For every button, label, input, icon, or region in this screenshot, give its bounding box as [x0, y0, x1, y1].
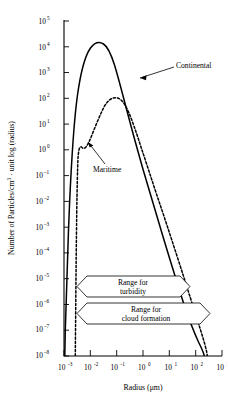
x-tick-label: 10 1	[165, 361, 178, 372]
y-tick-exponent: –2	[43, 195, 50, 201]
x-tick-mantissa: 10	[58, 363, 66, 372]
y-tick-label: 10 –6	[36, 298, 50, 309]
y-tick-exponent: –4	[43, 246, 50, 252]
annotation-range-turbidity[interactable]: Range for turbidity	[77, 276, 190, 297]
x-tick-exponent: 0	[148, 361, 151, 367]
x-tick-label: 10 -2	[84, 361, 99, 372]
y-tick-mantissa: 10	[39, 94, 47, 103]
range-turbidity-line2: turbidity	[120, 287, 146, 296]
y-tick-mantissa: 10	[36, 197, 44, 206]
y-tick-mantissa: 10	[36, 274, 44, 283]
y-tick-mantissa: 10	[36, 223, 44, 232]
chart-canvas: 10 5 10 4 10 3 10 2 10 1 10 0	[0, 0, 227, 419]
y-tick-exponent: 1	[47, 118, 50, 124]
x-tick-exponent: -1	[121, 361, 126, 367]
y-tick-label: 10 2	[39, 92, 50, 103]
y-tick-label: 10 –8	[36, 349, 50, 360]
y-tick-exponent: 2	[47, 92, 50, 98]
y-tick-exponent: 4	[47, 41, 50, 47]
y-tick-mantissa: 10	[36, 300, 44, 309]
y-tick-label: 10 –7	[36, 323, 50, 334]
y-tick-exponent: 5	[47, 15, 50, 21]
y-axis-title-tail: · unit log (radius)	[7, 121, 16, 178]
x-tick-exponent: 1	[175, 361, 178, 367]
x-axis-ticks	[64, 350, 222, 356]
continental-arrowhead-icon	[140, 75, 147, 80]
y-tick-mantissa: 10	[39, 43, 47, 52]
annotation-range-cloud-formation[interactable]: Range for cloud formation	[77, 303, 210, 324]
y-tick-exponent: 3	[47, 66, 50, 72]
range-turbidity-line1: Range for	[118, 278, 149, 287]
y-tick-exponent: –3	[43, 221, 50, 227]
y-tick-label: 10 4	[39, 41, 50, 52]
y-tick-label: 10 0	[39, 143, 50, 154]
x-tick-label: 10 0	[138, 361, 151, 372]
y-axis-title-lead: Number of Particles/cm	[7, 180, 16, 254]
y-tick-exponent: –6	[43, 298, 50, 304]
y-tick-mantissa: 10	[39, 120, 47, 129]
x-axis-title: Radius (μm)	[123, 383, 162, 392]
x-tick-exponent: 2	[201, 361, 204, 367]
y-tick-mantissa: 10	[39, 17, 47, 26]
y-tick-mantissa: 10	[36, 171, 44, 180]
range-cloud-formation-line1: Range for	[131, 305, 162, 314]
y-tick-label: 10 –3	[36, 221, 50, 232]
y-tick-exponent: –8	[43, 349, 50, 355]
y-tick-label: 10 3	[39, 66, 50, 77]
annotation-continental: Continental	[140, 61, 211, 80]
y-tick-mantissa: 10	[36, 351, 44, 360]
x-tick-mantissa: 10	[138, 363, 146, 372]
x-tick-label: 10 -1	[111, 361, 126, 372]
svg-text:Number of Particles/cm3 · unit: Number of Particles/cm3 · unit log (radi…	[6, 121, 16, 255]
y-tick-label: 10 –4	[36, 246, 50, 257]
aerosol-size-distribution-figure: 10 5 10 4 10 3 10 2 10 1 10 0	[0, 0, 227, 419]
y-tick-exponent: –7	[43, 323, 50, 329]
x-tick-mantissa: 10	[84, 363, 92, 372]
y-axis-title: Number of Particles/cm3 · unit log (radi…	[6, 121, 16, 255]
y-tick-exponent: –5	[43, 272, 50, 278]
y-tick-label: 10 –5	[36, 272, 50, 283]
x-tick-exponent: -2	[94, 361, 99, 367]
x-axis-tick-labels: 10 -3 10 -2 10 -1 10 0 10 1 10 2	[58, 361, 227, 372]
continental-label: Continental	[176, 61, 211, 70]
x-tick-mantissa: 10	[191, 363, 199, 372]
annotation-maritime: Maritime	[88, 142, 122, 174]
maritime-label: Maritime	[93, 165, 122, 174]
y-tick-mantissa: 10	[36, 325, 44, 334]
x-tick-exponent: -3	[68, 361, 73, 367]
x-tick-label: 10 3	[217, 361, 228, 372]
y-tick-mantissa: 10	[39, 68, 47, 77]
y-tick-exponent: –1	[43, 169, 50, 175]
x-tick-label: 10 2	[191, 361, 204, 372]
y-tick-label: 10 –2	[36, 195, 50, 206]
range-cloud-formation-line2: cloud formation	[122, 314, 171, 323]
y-tick-exponent: 0	[47, 143, 50, 149]
x-tick-mantissa: 10	[111, 363, 119, 372]
y-tick-label: 10 –1	[36, 169, 50, 180]
maritime-arrowhead-icon	[88, 142, 93, 148]
x-tick-label: 10 -3	[58, 361, 73, 372]
x-tick-exponent: 3	[227, 361, 228, 367]
x-tick-mantissa: 10	[165, 363, 173, 372]
x-tick-mantissa: 10	[217, 363, 225, 372]
y-tick-label: 10 1	[39, 118, 50, 129]
y-tick-mantissa: 10	[39, 145, 47, 154]
y-tick-label: 10 5	[39, 15, 50, 26]
y-axis-tick-labels: 10 5 10 4 10 3 10 2 10 1 10 0	[36, 15, 50, 360]
y-tick-mantissa: 10	[36, 248, 44, 257]
